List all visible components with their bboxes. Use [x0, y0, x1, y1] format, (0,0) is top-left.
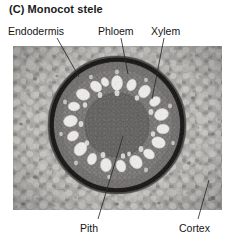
panel-letter: (C)	[9, 3, 25, 15]
label-xylem: Xylem	[151, 25, 180, 37]
label-endodermis: Endodermis	[8, 25, 64, 37]
label-phloem: Phloem	[98, 25, 134, 37]
label-pith: Pith	[80, 222, 98, 234]
figure-panel: (C)Monocot stele	[0, 0, 235, 241]
label-cortex: Cortex	[179, 222, 210, 234]
micrograph-image	[13, 46, 222, 210]
figure-title-text: Monocot stele	[28, 3, 103, 15]
figure-title: (C)Monocot stele	[9, 3, 103, 16]
